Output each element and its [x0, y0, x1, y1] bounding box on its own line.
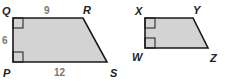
vertex-label-w: W	[132, 51, 144, 63]
similar-trapezoids-diagram: Q R S P 9 6 12 X Y Z W	[0, 0, 225, 83]
vertex-label-s: S	[110, 67, 118, 79]
side-label-pq: 6	[2, 35, 8, 46]
vertex-label-q: Q	[2, 5, 11, 17]
side-label-ps: 12	[54, 67, 66, 78]
vertex-label-z: Z	[209, 52, 218, 64]
vertex-label-r: R	[83, 4, 91, 16]
vertex-label-y: Y	[193, 4, 202, 16]
vertex-label-p: P	[3, 67, 11, 79]
trapezoid-pqrs: Q R S P 9 6 12	[2, 4, 118, 79]
vertex-label-x: X	[134, 5, 143, 17]
trapezoid-wxyz: X Y Z W	[132, 4, 218, 64]
trapezoid-wxyz-shape	[145, 18, 208, 48]
trapezoid-pqrs-shape	[13, 18, 107, 62]
side-label-qr: 9	[44, 5, 50, 16]
